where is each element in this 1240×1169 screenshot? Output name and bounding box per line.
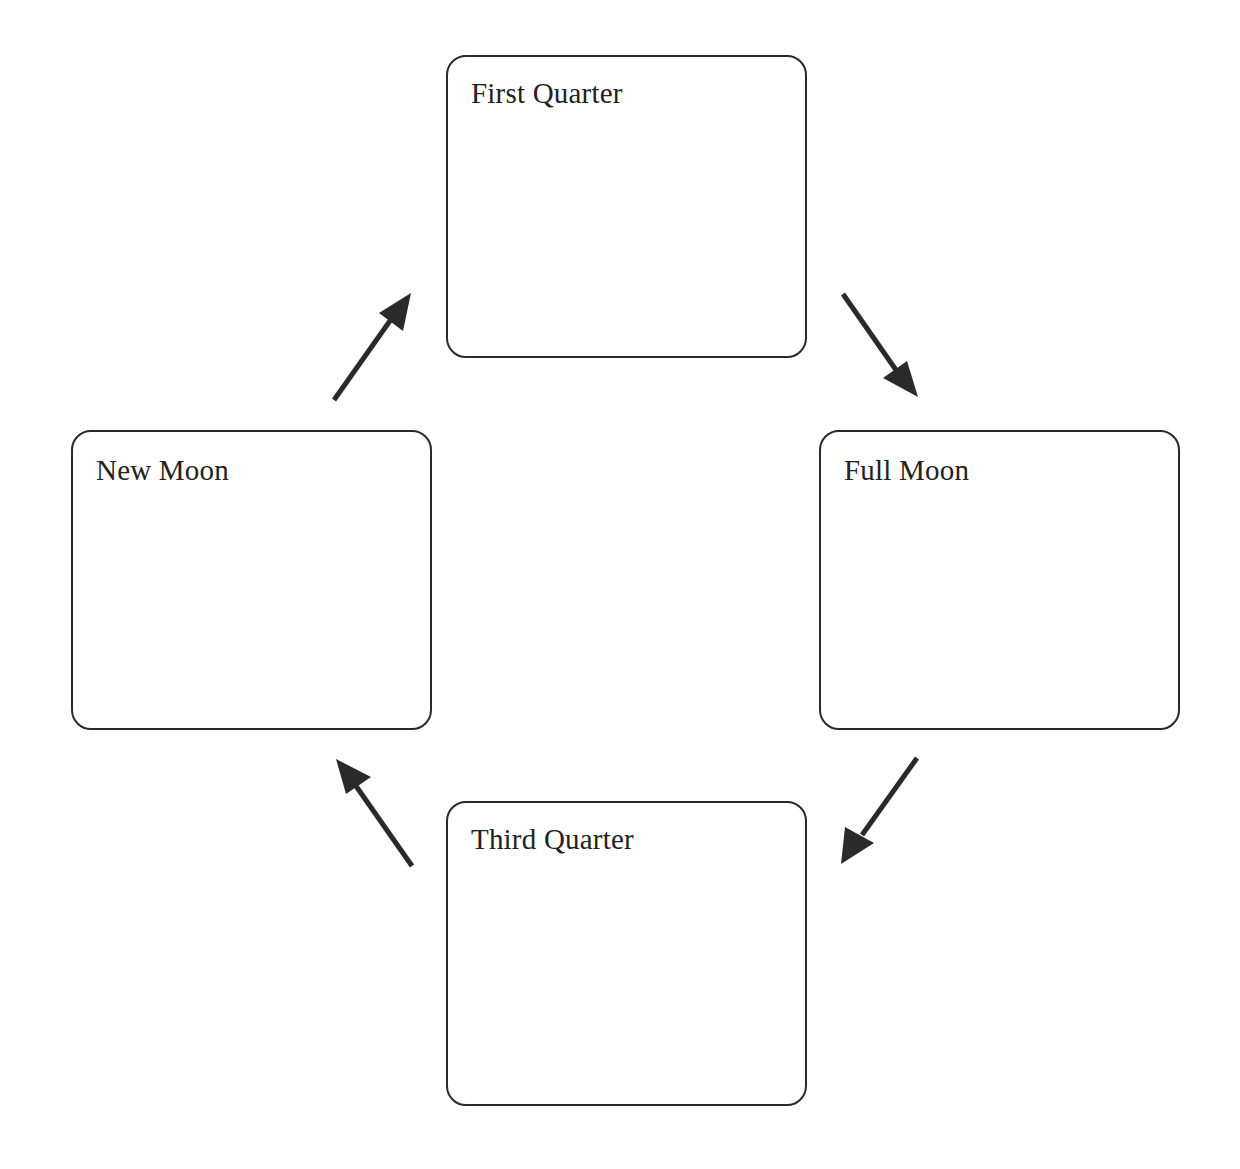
arrow-new-to-first-icon [334, 293, 411, 400]
phase-box-third-quarter: Third Quarter [446, 801, 807, 1106]
phase-label-full-moon: Full Moon [844, 454, 969, 487]
phase-label-first-quarter: First Quarter [471, 77, 623, 110]
phase-box-first-quarter: First Quarter [446, 55, 807, 358]
phase-box-full-moon: Full Moon [819, 430, 1180, 730]
phase-label-new-moon: New Moon [96, 454, 229, 487]
arrow-third-to-new-icon [336, 759, 412, 866]
arrow-first-to-full-icon [843, 294, 918, 397]
arrow-full-to-third-icon [841, 758, 917, 864]
phase-box-new-moon: New Moon [71, 430, 432, 730]
phase-label-third-quarter: Third Quarter [471, 823, 634, 856]
